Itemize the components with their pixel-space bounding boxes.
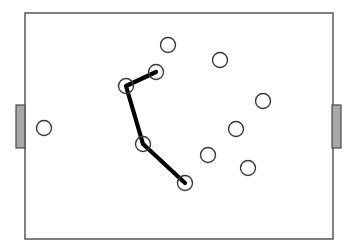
goal-left — [16, 105, 25, 148]
pitch-canvas — [0, 0, 353, 250]
goal-right — [332, 105, 341, 148]
pitch-diagram — [0, 0, 353, 250]
pitch-boundary — [25, 13, 333, 239]
